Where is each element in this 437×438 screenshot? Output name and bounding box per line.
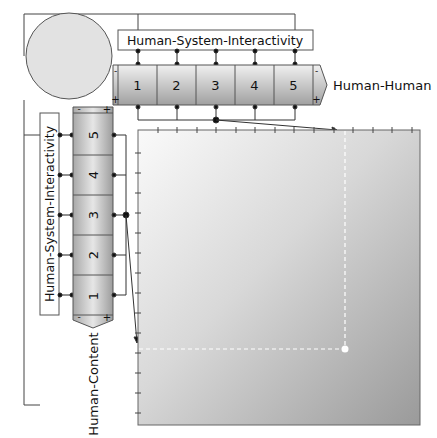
top-axis-label-box: Human-System-Interactivity <box>118 30 313 50</box>
plus-sign: + <box>111 94 119 105</box>
h-cell-4[interactable]: 4 <box>250 78 258 93</box>
vertical-scale-human-content: - + - + 1 2 3 4 5 <box>73 104 113 328</box>
h-cell-5[interactable]: 5 <box>289 78 297 93</box>
minus-sign: - <box>315 66 318 76</box>
dimension-diagram: Human-System-Interactivity - + - + 1 2 3… <box>0 0 437 438</box>
minus-sign: - <box>114 66 117 76</box>
v-cell-4[interactable]: 4 <box>86 171 101 179</box>
plus-sign: + <box>103 104 111 115</box>
v-cell-5[interactable]: 5 <box>86 131 101 139</box>
selected-point-marker[interactable] <box>342 346 349 353</box>
minus-sign: - <box>77 104 80 114</box>
h-cell-2[interactable]: 2 <box>172 78 180 93</box>
plot-area[interactable] <box>135 127 420 425</box>
left-axis-label: Human-System-Interactivity <box>42 125 57 302</box>
h-cell-3[interactable]: 3 <box>211 78 219 93</box>
plus-sign: + <box>103 312 111 323</box>
plus-sign: + <box>312 94 320 105</box>
origin-circle <box>26 13 112 99</box>
top-axis-label: Human-System-Interactivity <box>127 33 304 48</box>
v-cell-3[interactable]: 3 <box>86 211 101 219</box>
right-connectors <box>112 133 139 343</box>
h-cell-1[interactable]: 1 <box>133 78 141 93</box>
left-connectors <box>58 133 74 297</box>
v-cell-2[interactable]: 2 <box>86 251 101 259</box>
vertical-scale-label: Human-Content <box>86 332 101 435</box>
v-cell-1[interactable]: 1 <box>86 292 101 300</box>
left-axis-label-box: Human-System-Interactivity <box>40 113 59 315</box>
top-connectors <box>136 49 297 66</box>
horizontal-scale-label: Human-Human <box>333 78 431 93</box>
horizontal-scale-human-human: - + - + 1 2 3 4 5 <box>111 65 327 105</box>
minus-sign: - <box>77 312 80 322</box>
